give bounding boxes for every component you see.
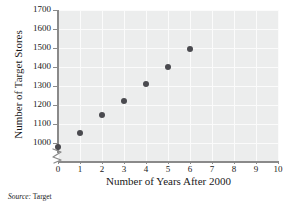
y-axis-tick: [53, 29, 57, 30]
gridline-horizontal: [58, 86, 278, 87]
y-axis-tick: [53, 67, 57, 68]
x-axis-tick-label: 6: [178, 164, 202, 175]
y-axis-title: Number of Target Stores: [12, 10, 25, 160]
scatter-chart-figure: 0123456789101000110012001300140015001600…: [0, 0, 291, 209]
source-note: Source: Target: [8, 192, 52, 202]
x-axis-tick-label: 2: [90, 164, 114, 175]
x-axis-tick-label: 10: [266, 164, 290, 175]
x-axis-tick-label: 0: [46, 164, 70, 175]
y-axis-tick: [53, 10, 57, 11]
x-axis-tick-label: 3: [112, 164, 136, 175]
x-axis-tick-label: 4: [134, 164, 158, 175]
y-axis-tick: [53, 124, 57, 125]
source-label: Source:: [8, 192, 31, 201]
x-axis-title: Number of Years After 2000: [58, 175, 279, 188]
x-axis-tick-label: 1: [68, 164, 92, 175]
gridline-horizontal: [58, 143, 278, 144]
gridline-horizontal: [58, 105, 278, 106]
x-axis-tick-label: 7: [200, 164, 224, 175]
y-axis-tick: [53, 48, 57, 49]
y-axis-line: [57, 10, 59, 153]
source-value: Target: [33, 192, 52, 201]
x-axis-tick-label: 5: [156, 164, 180, 175]
x-axis-tick-label: 9: [244, 164, 268, 175]
y-axis-tick: [53, 86, 57, 87]
x-axis-tick-label: 8: [222, 164, 246, 175]
gridline-vertical: [278, 10, 279, 162]
data-point: [99, 112, 105, 118]
y-axis-tick: [53, 105, 57, 106]
gridline-horizontal: [58, 48, 278, 49]
data-point: [121, 98, 127, 104]
plot-area: [58, 10, 278, 162]
gridline-horizontal: [58, 124, 278, 125]
gridline-horizontal: [58, 10, 278, 11]
gridline-horizontal: [58, 29, 278, 30]
data-point: [77, 130, 83, 136]
